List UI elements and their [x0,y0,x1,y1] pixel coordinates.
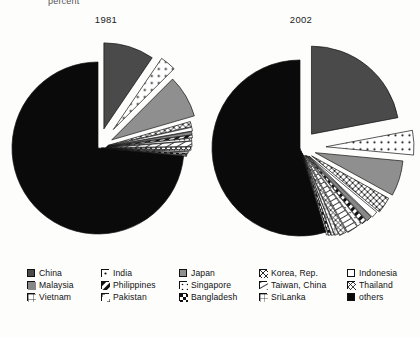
swatch-malaysia [27,281,35,289]
swatch-srilanka [259,293,267,301]
swatch-philippines [101,281,109,289]
legend-label: China [39,268,62,278]
legend-item-bangladesh[interactable]: Bangladesh [179,292,259,302]
legend-item-vietnam[interactable]: Vietnam [27,292,101,302]
swatch-china [27,269,35,277]
legend-row: China India Japan Korea, Rep. Indonesia [27,268,399,278]
legend-row: Malaysia Philippines Singapore Taiwan, C… [27,280,399,290]
legend-item-others[interactable]: others [347,292,399,302]
units-note: percent [48,0,79,6]
legend-label: Thailand [359,280,393,290]
legend-label: Philippines [113,280,156,290]
pie-title-2002: 2002 [271,14,331,25]
legend-item-srilanka[interactable]: SriLanka [259,292,347,302]
pie-2002 [212,28,412,260]
legend-label: Taiwan, China [271,280,326,290]
legend-label: SriLanka [271,292,306,302]
legend-item-pakistan[interactable]: Pakistan [101,292,179,302]
legend-row: Vietnam Pakistan Bangladesh SriLanka oth… [27,292,399,302]
legend-item-thailand[interactable]: Thailand [347,280,399,290]
swatch-vietnam [27,293,35,301]
legend: China India Japan Korea, Rep. Indonesia [27,268,399,302]
legend-item-malaysia[interactable]: Malaysia [27,280,101,290]
legend-item-china[interactable]: China [27,268,101,278]
swatch-indonesia [347,269,355,277]
legend-item-india[interactable]: India [101,268,179,278]
legend-item-indonesia[interactable]: Indonesia [347,268,399,278]
swatch-singapore [179,281,187,289]
legend-item-taiwan[interactable]: Taiwan, China [259,280,347,290]
swatch-korea [259,269,267,277]
legend-item-korea[interactable]: Korea, Rep. [259,268,347,278]
pie-title-1981: 1981 [76,14,136,25]
legend-label: Singapore [191,280,231,290]
swatch-japan [179,269,187,277]
legend-label: others [359,292,384,302]
swatch-others [347,293,355,301]
legend-label: Malaysia [39,280,74,290]
legend-item-philippines[interactable]: Philippines [101,280,179,290]
legend-label: Japan [191,268,215,278]
swatch-india [101,269,109,277]
legend-item-japan[interactable]: Japan [179,268,259,278]
legend-label: Bangladesh [191,292,237,302]
legend-label: Indonesia [359,268,397,278]
swatch-bangladesh [179,293,187,301]
pie-1981 [14,28,210,260]
swatch-pakistan [101,293,109,301]
legend-label: Korea, Rep. [271,268,318,278]
swatch-thailand [347,281,355,289]
legend-label: Pakistan [113,292,147,302]
legend-label: India [113,268,132,278]
legend-item-singapore[interactable]: Singapore [179,280,259,290]
pie-chart-figure: percent 1981 2002 [0,0,420,337]
legend-label: Vietnam [39,292,71,302]
swatch-taiwan [259,281,267,289]
